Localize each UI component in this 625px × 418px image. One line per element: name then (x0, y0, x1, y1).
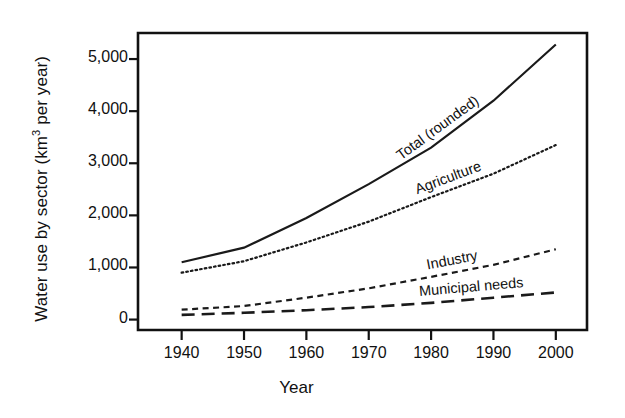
series-line-agriculture (182, 145, 556, 273)
data-series (182, 44, 556, 314)
plot-canvas: Total (rounded)AgricultureIndustryMunici… (0, 0, 625, 418)
series-label-industry: Industry (425, 247, 479, 273)
water-use-chart: Water use by sector (km3 per year) 5,000… (0, 0, 625, 418)
series-label-total-rounded: Total (rounded) (393, 92, 481, 162)
x-axis-ticks (182, 330, 556, 340)
y-axis-ticks (129, 59, 138, 320)
x-axis-title: Year (0, 378, 609, 398)
series-line-total-rounded (182, 44, 556, 262)
series-labels: Total (rounded)AgricultureIndustryMunici… (393, 92, 524, 299)
series-line-municipal-needs (182, 292, 556, 314)
